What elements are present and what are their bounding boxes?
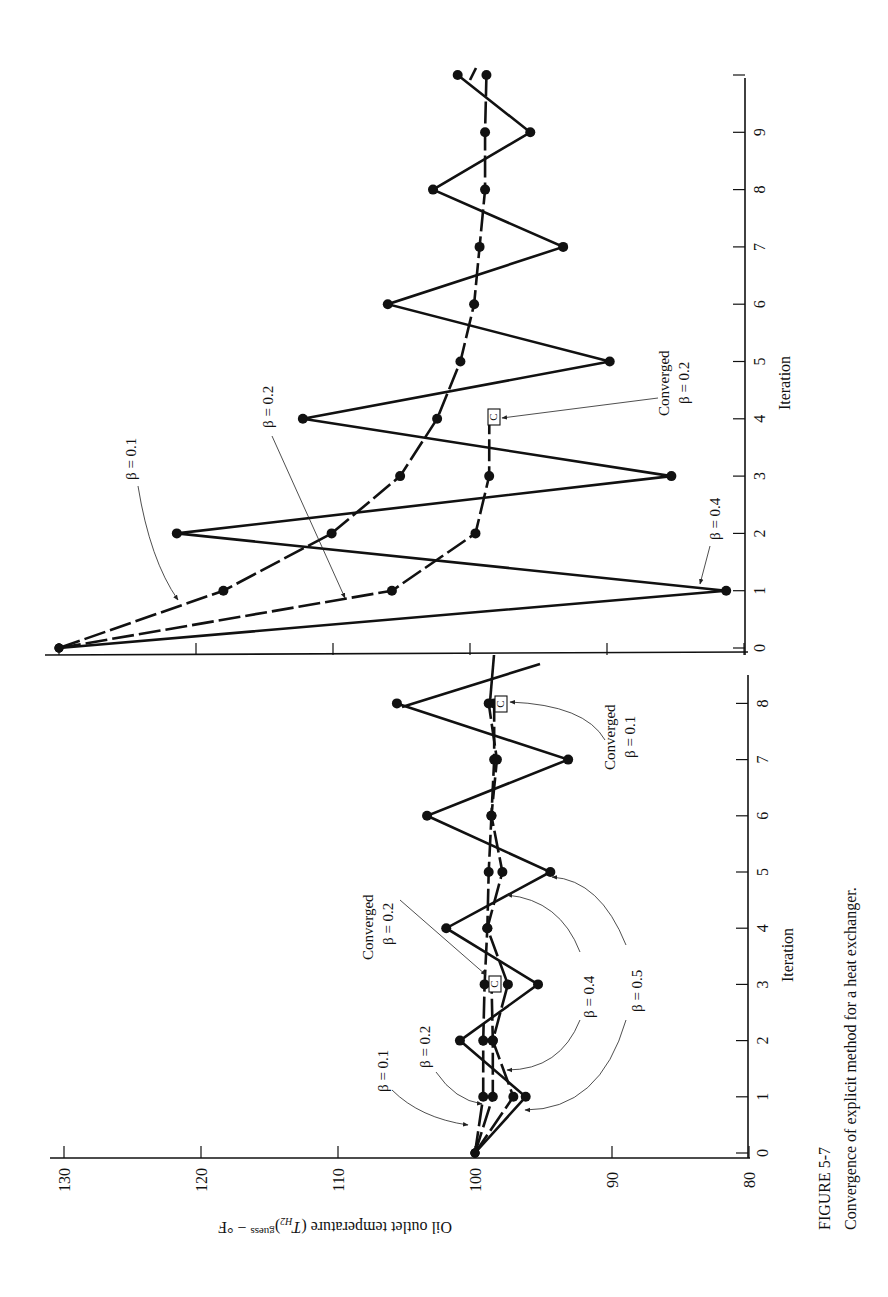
- right-arrow-converged-02: [502, 398, 658, 418]
- iteration-tick-label: 0: [751, 644, 768, 652]
- iteration-tick-label: 4: [751, 415, 768, 423]
- left-temperature-ticks: 8090100110120130: [56, 1146, 758, 1192]
- figure-canvas: 8090100110120130 012345678 C C β = 0.1 β…: [0, 0, 888, 1297]
- left-iteration-ticks: 012345678: [736, 699, 771, 1157]
- left-series-beta04-point: [484, 698, 494, 708]
- right-series-beta01-point: [455, 357, 465, 367]
- iteration-tick-label: 2: [754, 1037, 771, 1045]
- left-series-beta05-point: [455, 1036, 465, 1046]
- left-series-beta04-point: [492, 755, 502, 765]
- left-series-group: [392, 698, 573, 1157]
- left-converged-marker-beta01: C: [494, 696, 507, 712]
- left-series-beta01-point: [484, 867, 494, 877]
- right-arrow-beta04: [700, 546, 710, 584]
- svg-text:C: C: [487, 413, 499, 420]
- right-series-beta02-point: [484, 471, 494, 481]
- iteration-tick-label: 6: [754, 812, 771, 820]
- right-converged-beta-02: β = 0.2: [676, 362, 692, 404]
- right-series-beta01-point: [327, 528, 337, 538]
- left-arrow-beta04-high: [507, 895, 580, 952]
- iteration-tick-label: 1: [751, 587, 768, 595]
- iteration-tick-label: 3: [751, 472, 768, 480]
- left-arrow-beta01: [392, 1090, 468, 1125]
- left-panel: 8090100110120130 012345678 C C β = 0.1 β…: [50, 655, 796, 1192]
- left-series-beta04-point: [486, 811, 496, 821]
- right-series-beta04-point: [298, 414, 308, 424]
- left-converged-title-02: Converged: [360, 894, 376, 960]
- iteration-tick-label: 5: [751, 358, 768, 366]
- iteration-tick-label: 6: [751, 300, 768, 308]
- right-series-beta04-point: [55, 644, 64, 653]
- left-series-beta05-point: [563, 755, 573, 765]
- iteration-tick-label: 0: [754, 1149, 771, 1157]
- left-series-beta02-point: [488, 1092, 498, 1102]
- left-series-beta04-point: [488, 1036, 498, 1046]
- right-iteration-ticks: 0123456789: [733, 75, 768, 652]
- right-series-beta04-point: [525, 127, 535, 137]
- left-arrow-beta05-high: [552, 877, 626, 945]
- right-arrow-beta02: [272, 436, 345, 598]
- temperature-tick-label: 90: [604, 1172, 621, 1188]
- iteration-tick-label: 8: [754, 699, 771, 707]
- right-series-beta04-point: [453, 70, 463, 80]
- left-series-beta01-point: [478, 1092, 488, 1102]
- right-series-beta01-point: [480, 127, 490, 137]
- right-xlabel: Iteration: [776, 356, 793, 410]
- right-series-beta01-point: [469, 299, 479, 309]
- left-series-beta05-point: [521, 1092, 531, 1102]
- right-series-beta04-point: [428, 185, 438, 195]
- right-converged-marker-beta02: C: [487, 409, 500, 425]
- right-temperature-axis: [45, 652, 748, 655]
- iteration-tick-label: 8: [751, 186, 768, 194]
- right-label-beta01: β = 0.1: [123, 438, 139, 480]
- temperature-tick-label: 100: [467, 1168, 484, 1192]
- right-series-beta04-point: [558, 242, 568, 252]
- left-series-beta05-point: [545, 867, 555, 877]
- left-series-beta05-point: [392, 698, 402, 708]
- left-series-beta05-point: [441, 923, 451, 933]
- left-series-beta01-point: [478, 1036, 488, 1046]
- right-series-beta04-point: [383, 299, 393, 309]
- right-series-beta04-point: [605, 357, 615, 367]
- temperature-tick-label: 110: [330, 1168, 347, 1191]
- left-arrow-beta02: [436, 1072, 482, 1104]
- iteration-tick-label: 5: [754, 868, 771, 876]
- left-arrow-converged-02: [400, 900, 486, 975]
- left-series-beta05-point: [471, 1149, 480, 1158]
- left-arrow-beta04-low: [507, 1020, 580, 1070]
- right-series-beta04-point: [721, 586, 731, 596]
- iteration-tick-label: 3: [754, 980, 771, 988]
- right-series-beta01-point: [395, 471, 405, 481]
- temperature-tick-label: 130: [56, 1168, 73, 1192]
- left-arrow-beta05-low: [525, 1020, 626, 1110]
- right-arrow-beta01: [138, 486, 178, 600]
- figure-number: FIGURE 5-7: [816, 1147, 833, 1230]
- left-series-beta04-point: [503, 979, 513, 989]
- iteration-tick-label: 4: [754, 924, 771, 932]
- right-series-beta01-point: [432, 414, 442, 424]
- right-series-beta02-point: [387, 586, 397, 596]
- left-label-beta05: β = 0.5: [629, 970, 645, 1012]
- iteration-tick-label: 2: [751, 529, 768, 537]
- left-converged-beta-01: β = 0.1: [622, 716, 638, 758]
- right-series-beta04-point: [666, 471, 676, 481]
- left-xlabel: Iteration: [779, 928, 796, 982]
- temperature-tick-label: 80: [741, 1172, 758, 1188]
- svg-text:C: C: [494, 700, 506, 707]
- right-series-beta01-point: [481, 70, 491, 80]
- temperature-tick-label: 120: [193, 1168, 210, 1192]
- left-arrow-converged-01: [510, 702, 605, 740]
- ylabel: Oil outlet temperature (TH2)guess − °F: [218, 1216, 452, 1238]
- right-series-group: [55, 70, 732, 653]
- left-series-beta05-point: [533, 979, 543, 989]
- right-series-beta01-line: [59, 75, 486, 648]
- left-converged-title-01: Converged: [602, 704, 618, 770]
- left-label-beta02: β = 0.2: [417, 1026, 433, 1068]
- left-series-beta04-point: [482, 923, 492, 933]
- right-label-beta02: β = 0.2: [260, 386, 276, 428]
- right-series-beta01-point: [480, 185, 490, 195]
- svg-text:C: C: [488, 980, 500, 987]
- iteration-tick-label: 7: [751, 243, 768, 251]
- right-label-beta04: β = 0.4: [707, 497, 723, 540]
- right-series-beta01-point: [218, 586, 228, 596]
